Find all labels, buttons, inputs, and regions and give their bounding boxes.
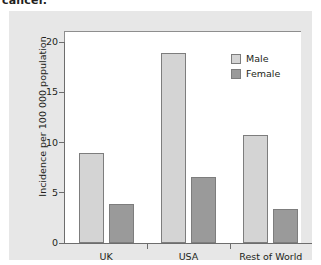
y-tick-label: 20: [46, 36, 58, 48]
y-tick-5: 5: [36, 187, 64, 199]
legend-item-female: Female: [231, 66, 280, 81]
legend-swatch-female: [231, 69, 241, 79]
legend-label-female: Female: [246, 68, 280, 79]
bar-usa-male: [161, 53, 186, 243]
y-tick-0: 0: [36, 237, 64, 249]
x-axis-label-usa: USA: [147, 251, 229, 262]
legend-label-male: Male: [246, 53, 269, 64]
y-tick-15: 15: [36, 86, 64, 98]
bar-group-usa: [147, 42, 229, 243]
x-tick: [147, 244, 148, 249]
y-tick-mark: [59, 243, 64, 244]
y-tick-label: 10: [46, 137, 58, 149]
y-tick-mark: [59, 42, 64, 43]
caption-text: cancer.: [2, 0, 47, 7]
y-tick-mark: [59, 192, 64, 193]
x-axis-label-rest-of-world: Rest of World: [230, 251, 312, 262]
y-tick-label: 0: [52, 237, 58, 249]
y-tick-10: 10: [36, 137, 64, 149]
bar-uk-female: [109, 204, 134, 243]
chart-legend: MaleFemale: [231, 51, 280, 81]
bar-rest-of-world-male: [243, 135, 268, 243]
x-axis-label-uk: UK: [65, 251, 147, 262]
figure-container: cancer. Incidence per 100 000 population…: [0, 0, 321, 265]
y-tick-mark: [59, 92, 64, 93]
bar-group-uk: [65, 42, 147, 243]
y-tick-20: 20: [36, 36, 64, 48]
x-axis-line: [64, 243, 312, 244]
x-tick: [230, 244, 231, 249]
bar-usa-female: [191, 177, 216, 243]
bar-uk-male: [79, 153, 104, 243]
y-tick-mark: [59, 142, 64, 143]
chart-panel: Incidence per 100 000 population 0510152…: [9, 11, 312, 260]
legend-swatch-male: [231, 54, 241, 64]
bar-rest-of-world-female: [273, 209, 298, 243]
y-axis-title: Incidence per 100 000 population: [37, 22, 48, 212]
legend-item-male: Male: [231, 51, 280, 66]
caption-clip: cancer.: [0, 0, 150, 9]
y-tick-label: 5: [52, 187, 58, 199]
y-tick-label: 15: [46, 86, 58, 98]
